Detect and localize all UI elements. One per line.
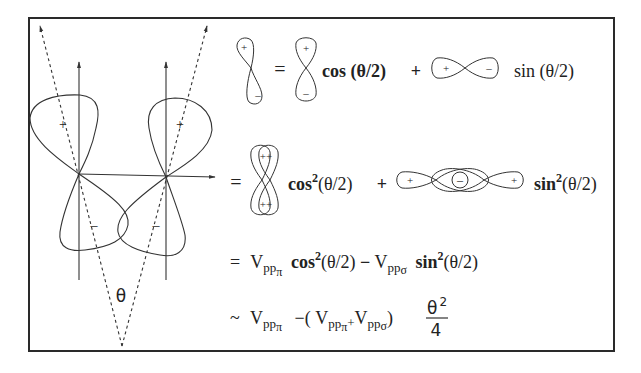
- sign: +: [241, 41, 247, 53]
- plus-sign: +: [411, 61, 421, 81]
- dashed-axis-right: [122, 26, 207, 346]
- sign: –: [254, 89, 261, 101]
- fraction-denominator: 4: [431, 320, 442, 340]
- sign: +: [511, 174, 517, 186]
- left-orbital-lower-lobe: [60, 174, 128, 250]
- sign-left-lower: –: [90, 218, 99, 233]
- equation-row-1: + – = + – cos (θ/2) + + – sin (θ/2): [237, 38, 574, 104]
- dashed-axis-left: [40, 26, 122, 346]
- sign-right-lower: –: [152, 218, 161, 233]
- sign-right-upper: +: [176, 117, 184, 132]
- term-cos-half-theta: cos (θ/2): [322, 61, 386, 82]
- fraction-numerator: θ2: [427, 295, 447, 318]
- row4-expression: ~ Vppπ −( Vppπ+Vppσ): [230, 308, 393, 335]
- left-orbital-upper-lobe: [30, 95, 98, 174]
- sign-left-upper: +: [59, 117, 67, 132]
- term-sin2: sin2(θ/2): [534, 171, 597, 195]
- sign: ++: [260, 198, 272, 210]
- sign: +: [443, 62, 449, 74]
- sign: +: [407, 174, 413, 186]
- sign: –: [302, 87, 309, 99]
- sign: +: [303, 42, 309, 54]
- term-sin-half-theta: sin (θ/2): [514, 61, 574, 82]
- equals-sign: =: [274, 58, 285, 80]
- sign: –: [485, 62, 492, 74]
- sign: ++: [260, 150, 272, 162]
- plus-sign: +: [377, 174, 387, 194]
- angle-theta-label: θ: [116, 286, 126, 306]
- sign: –: [456, 173, 464, 187]
- left-panel-labels: + – + – θ: [59, 117, 184, 306]
- equation-row-3: = Vppπ cos2(θ/2) − Vppσ sin2(θ/2): [230, 249, 478, 280]
- right-orbital-lower-lobe: [118, 177, 185, 256]
- equation-row-2: = ++ ++ cos2(θ/2) + + – + sin2(θ/2): [230, 145, 596, 215]
- equals-sign: =: [230, 171, 241, 193]
- equation-row-4: ~ Vppπ −( Vppπ+Vppσ) θ2 4: [230, 295, 448, 340]
- row3-expression: = Vppπ cos2(θ/2) − Vppσ sin2(θ/2): [230, 249, 478, 280]
- bond-axis: [79, 174, 215, 177]
- term-cos2: cos2(θ/2): [288, 171, 353, 195]
- orbital-overlap-diagram: + – + – θ + – = + – cos (θ/2) + + – sin …: [0, 0, 641, 373]
- right-orbital-upper-lobe: [148, 98, 212, 177]
